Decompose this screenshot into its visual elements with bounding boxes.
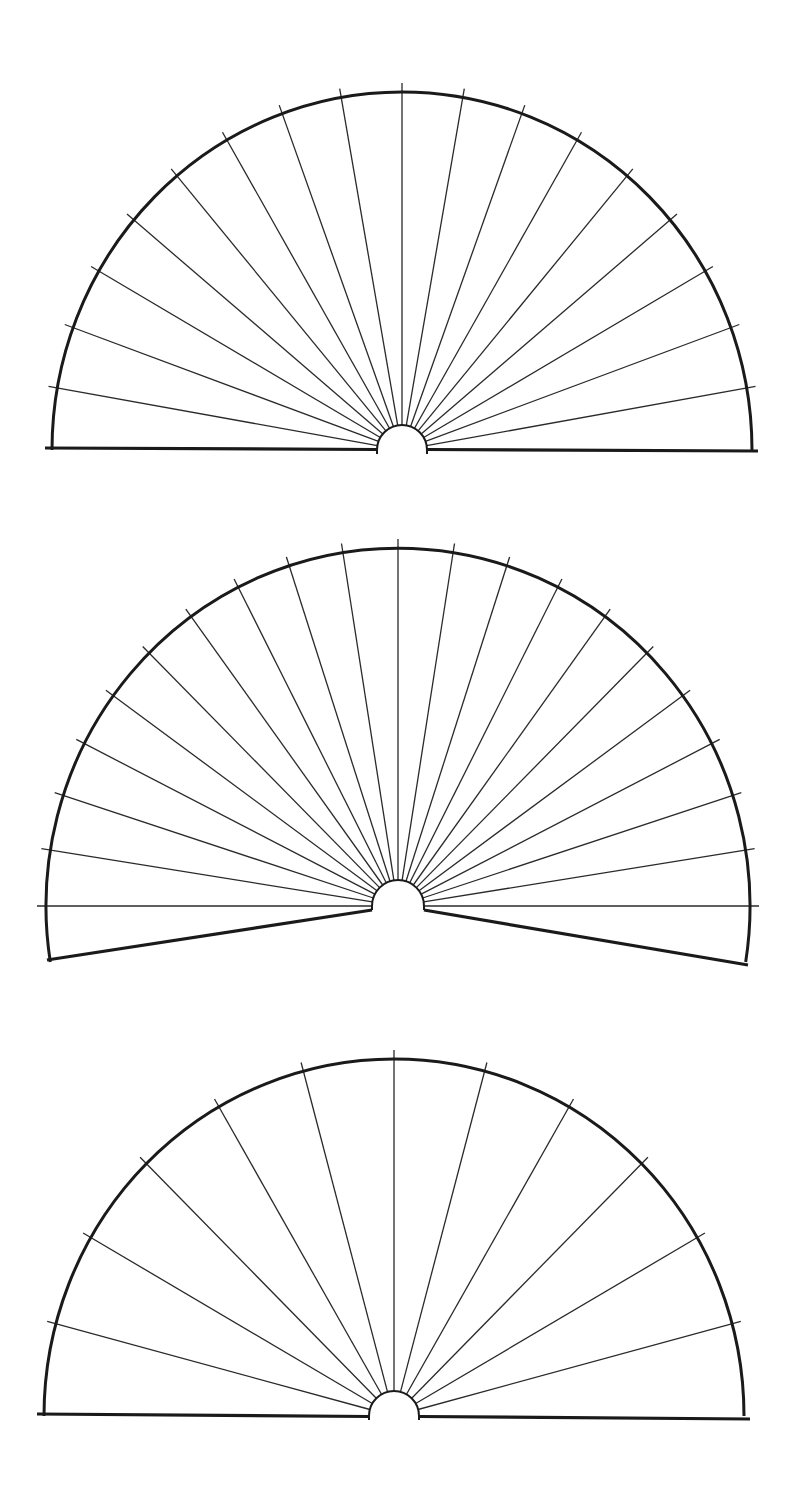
radial-line [406,89,464,426]
radial-line [127,214,383,434]
radial-line [416,647,653,888]
radial-line [286,557,390,881]
radial-line [279,105,393,426]
radial-line [416,1233,705,1404]
radial-line [342,544,394,881]
diagram-canvas [0,0,806,1496]
radial-line [411,105,525,426]
fan-chart-11-rays [37,1050,750,1420]
center-hub [372,880,424,910]
baseline-right [427,450,758,452]
radial-line [143,647,380,888]
radial-line [412,1157,648,1398]
radial-line [424,267,713,438]
radial-line [140,1157,376,1398]
radial-line [76,739,375,894]
fan-chart-17-rays [45,83,758,454]
radial-line [421,214,677,434]
radial-line [401,1063,487,1392]
radial-line [426,325,740,442]
radial-line [424,849,755,902]
radial-line [47,1321,370,1409]
baseline-left [37,1414,369,1417]
radial-line [171,169,386,431]
radial-line [223,132,390,428]
radial-line [402,544,454,881]
radial-line [49,386,378,445]
radial-line [427,386,756,445]
baseline-right [419,1417,750,1420]
radial-line [410,579,562,883]
radial-line [413,609,610,885]
radial-line [419,690,690,890]
radial-line [106,690,377,890]
center-hub [369,1391,419,1420]
radial-line [234,579,386,883]
radial-line [301,1063,387,1392]
baseline-left [45,448,377,450]
radial-line [406,557,510,881]
fan-chart-21-rays-extended [37,539,759,965]
radial-line [418,1321,741,1409]
radial-line [407,1099,574,1394]
radial-line [83,1233,372,1404]
radial-line [186,609,383,885]
radial-line [340,89,398,426]
radial-line [55,793,374,898]
radial-line [91,267,380,438]
radial-line [421,739,720,894]
radial-line [41,849,372,902]
radial-line [415,132,582,428]
radial-line [215,1099,382,1394]
radial-line [65,325,379,442]
bottom-edge-left [47,910,372,960]
radial-line [418,169,633,431]
bottom-edge-right [424,910,748,965]
radial-line [423,793,742,898]
